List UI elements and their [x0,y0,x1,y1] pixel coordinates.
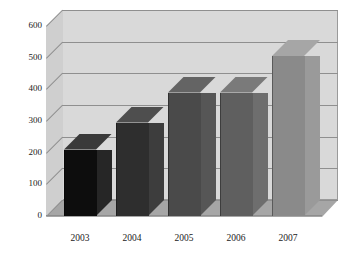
bar-front-face [64,150,97,217]
bar-front-face [272,56,305,216]
bar-side-face [304,56,320,216]
bar-side-face [200,93,216,217]
bar-top-face [168,77,216,93]
x-axis-tick-label: 2005 [161,233,207,243]
bar-top-face [64,134,112,150]
x-axis-tick-label: 2007 [265,233,311,243]
x-axis-tick-label: 2004 [109,233,155,243]
bar-side-face [96,150,112,217]
chart-bars [0,0,354,259]
x-axis-tick-label: 2003 [57,233,103,243]
bar-front-face [220,93,253,217]
bar-front-face [168,93,201,217]
bar-side-face [148,123,164,216]
bar-top-face [116,107,164,123]
bar-chart: 6005004003002001000 20032004200520062007 [0,0,354,259]
x-axis-tick-label: 2006 [213,233,259,243]
bar-2007[interactable] [272,56,304,216]
bar-2004[interactable] [116,123,148,216]
bar-top-face [220,77,268,93]
bar-front-face [116,123,149,216]
bar-top-face [272,40,320,56]
bar-2003[interactable] [64,150,96,217]
bar-side-face [252,93,268,217]
bar-2006[interactable] [220,93,252,217]
bar-2005[interactable] [168,93,200,217]
